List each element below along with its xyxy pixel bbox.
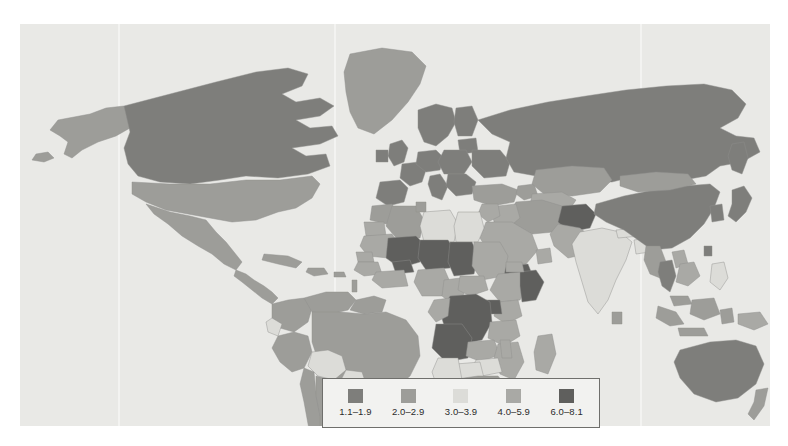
legend-swatch-icon-1 bbox=[401, 389, 416, 403]
region-united-kingdom bbox=[388, 140, 408, 166]
region-poland-central-europe bbox=[438, 150, 472, 174]
legend-item-2[interactable]: 3.0–3.9 bbox=[445, 389, 477, 417]
region-ireland bbox=[376, 150, 388, 162]
region-australia bbox=[674, 340, 764, 402]
legend-swatch-icon-2 bbox=[453, 389, 468, 403]
region-sri-lanka bbox=[612, 312, 622, 324]
region-sulawesi bbox=[720, 308, 734, 324]
region-egypt bbox=[454, 212, 484, 242]
region-angola bbox=[432, 324, 472, 362]
region-caribbean-puertorico bbox=[334, 272, 346, 277]
legend-label-4: 6.0–8.1 bbox=[550, 406, 582, 417]
legend-swatch-icon-0 bbox=[348, 389, 363, 403]
world-choropleth-svg bbox=[20, 24, 770, 426]
region-eritrea-djibouti bbox=[506, 262, 524, 272]
region-iberia bbox=[376, 180, 408, 206]
region-kamchatka bbox=[728, 142, 748, 174]
region-caribbean-cuba bbox=[262, 254, 302, 268]
region-tunisia bbox=[416, 202, 426, 212]
region-ukraine-belarus bbox=[472, 150, 510, 178]
region-india bbox=[572, 228, 632, 314]
region-finland bbox=[454, 106, 478, 136]
region-kazakhstan bbox=[532, 166, 612, 196]
region-malawi bbox=[500, 340, 512, 358]
legend-item-1[interactable]: 2.0–2.9 bbox=[392, 389, 424, 417]
region-lesser-antilles bbox=[352, 280, 357, 292]
region-alaska bbox=[32, 106, 132, 162]
region-norway-sweden bbox=[418, 104, 456, 146]
legend-label-2: 3.0–3.9 bbox=[445, 406, 477, 417]
figure-page: 1.1–1.9 2.0–2.9 3.0–3.9 4.0–5.9 6.0–8.1 bbox=[0, 0, 788, 446]
region-philippines bbox=[710, 262, 728, 290]
region-sumatra bbox=[656, 306, 684, 326]
region-malaysia bbox=[670, 296, 692, 306]
legend-label-0: 1.1–1.9 bbox=[339, 406, 371, 417]
fertility-rate-legend: 1.1–1.9 2.0–2.9 3.0–3.9 4.0–5.9 6.0–8.1 bbox=[322, 378, 600, 428]
legend-swatch-icon-4 bbox=[559, 389, 574, 403]
region-canada bbox=[124, 68, 338, 184]
region-peru bbox=[272, 332, 312, 372]
region-caribbean-hispaniola bbox=[306, 268, 328, 276]
region-madagascar bbox=[534, 334, 556, 374]
region-new-zealand bbox=[748, 388, 768, 420]
region-senegal-gambia bbox=[356, 252, 374, 262]
region-borneo bbox=[690, 298, 720, 320]
region-papua-new-guinea bbox=[738, 312, 768, 330]
legend-item-3[interactable]: 4.0–5.9 bbox=[498, 389, 530, 417]
legend-label-1: 2.0–2.9 bbox=[392, 406, 424, 417]
world-map-plate bbox=[20, 24, 770, 426]
region-oman bbox=[536, 248, 552, 264]
region-guianas bbox=[350, 296, 386, 314]
region-japan bbox=[728, 186, 752, 222]
region-ivorycoast-ghana bbox=[372, 270, 408, 288]
region-central-america bbox=[234, 270, 278, 304]
region-taiwan bbox=[704, 246, 712, 256]
legend-label-3: 4.0–5.9 bbox=[498, 406, 530, 417]
region-java bbox=[678, 328, 708, 336]
region-western-sahara bbox=[364, 222, 386, 236]
region-koreas bbox=[710, 204, 724, 222]
region-libya bbox=[420, 210, 458, 242]
region-greenland bbox=[344, 48, 426, 134]
region-cambodia-vietnam bbox=[676, 262, 700, 286]
legend-swatch-icon-3 bbox=[506, 389, 521, 403]
region-venezuela bbox=[304, 292, 356, 314]
region-turkey bbox=[472, 184, 518, 206]
region-russia bbox=[478, 84, 760, 182]
legend-item-4[interactable]: 6.0–8.1 bbox=[550, 389, 582, 417]
region-italy bbox=[428, 174, 448, 200]
legend-item-0[interactable]: 1.1–1.9 bbox=[339, 389, 371, 417]
region-somalia bbox=[520, 270, 544, 302]
region-balkans bbox=[446, 174, 476, 196]
region-thailand bbox=[658, 260, 676, 292]
